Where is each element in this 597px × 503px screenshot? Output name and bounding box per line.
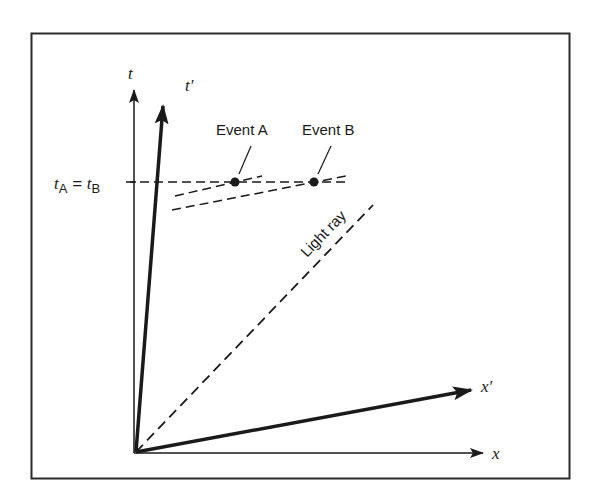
event-a-label: Event A — [216, 121, 268, 138]
t-axis-label: t — [128, 64, 134, 83]
spacetime-diagram: t x t′ x′ Light ray Event A Event B tA =… — [0, 0, 597, 503]
simultaneity-label: tA = tB — [54, 174, 100, 196]
event-a-point — [231, 178, 240, 187]
x-prime-axis-label: x′ — [480, 377, 493, 396]
simultaneity-line-a-prime — [175, 176, 262, 196]
event-b-pointer — [318, 146, 331, 174]
t-prime-axis-label: t′ — [185, 76, 194, 95]
t-prime-axis — [136, 106, 163, 452]
event-b-label: Event B — [302, 121, 355, 138]
x-axis-label: x — [491, 444, 500, 463]
event-b-point — [310, 178, 319, 187]
simultaneity-line-b-prime — [172, 176, 346, 210]
figure-border — [32, 34, 570, 479]
event-a-pointer — [239, 146, 251, 174]
light-ray-label: Light ray — [297, 207, 350, 261]
